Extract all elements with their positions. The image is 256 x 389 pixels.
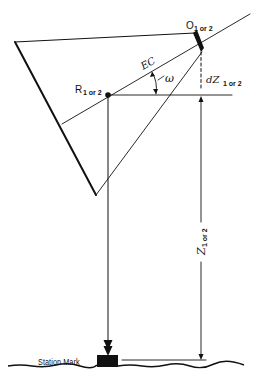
station-mark-block-icon xyxy=(97,355,118,367)
svg-text:R: R xyxy=(75,84,82,95)
ec-axis-line xyxy=(62,14,250,124)
svg-text:1 or 2: 1 or 2 xyxy=(83,89,102,96)
svg-text:O: O xyxy=(186,20,194,31)
label-dz: dZ 1 or 2 xyxy=(206,74,242,87)
plumb-arrow-lower-icon xyxy=(104,346,113,356)
label-r: R 1 or 2 xyxy=(75,84,102,96)
omega-leader xyxy=(158,76,164,80)
svg-text:dZ: dZ xyxy=(206,74,220,85)
label-z: Z 1 or 2 xyxy=(195,228,208,256)
z-arrow-up-icon xyxy=(199,96,204,102)
label-omega: ω xyxy=(165,72,174,85)
point-r-icon xyxy=(105,92,111,98)
z-arrow-down-icon xyxy=(199,354,204,360)
svg-text:1 or 2: 1 or 2 xyxy=(201,228,208,247)
svg-text:1 or 2: 1 or 2 xyxy=(194,25,213,32)
triangle-left-edge xyxy=(15,42,96,195)
omega-arrow-down-icon xyxy=(153,89,158,94)
label-o: O 1 or 2 xyxy=(186,20,213,32)
ground-surface xyxy=(8,361,244,368)
svg-text:1 or 2: 1 or 2 xyxy=(223,80,242,87)
svg-text:Z: Z xyxy=(195,247,208,256)
surveying-geometry-diagram: O 1 or 2 R 1 or 2 EC ω dZ 1 or 2 Z 1 or … xyxy=(0,0,256,389)
triangle-top-edge xyxy=(15,33,195,42)
lens-o-icon xyxy=(193,30,204,52)
